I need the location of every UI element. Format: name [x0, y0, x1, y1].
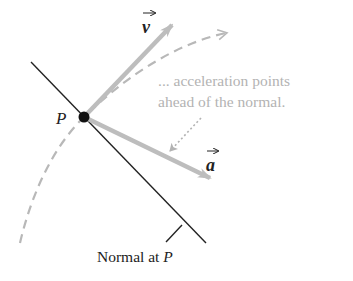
- velocity-label: v: [142, 13, 155, 37]
- acceleration-vector: [84, 117, 210, 178]
- annotation-pointer-arrow: [170, 118, 201, 151]
- point-p-label: P: [55, 109, 66, 128]
- normal-caption-point: P: [162, 248, 173, 265]
- normal-caption: Normal at P: [97, 248, 173, 265]
- normal-caption-prefix: Normal at: [97, 248, 163, 265]
- acceleration-label: a: [206, 151, 218, 175]
- velocity-label-text: v: [142, 17, 151, 37]
- acceleration-label-text: a: [206, 155, 215, 175]
- annotation-line-2: ahead of the normal.: [158, 93, 285, 110]
- normal-caption-leader: [166, 225, 182, 242]
- motion-diagram: P v a ... acceleration points ahead of t…: [0, 0, 353, 281]
- point-p-marker: [79, 112, 90, 123]
- normal-line: [31, 62, 206, 243]
- annotation-line-1: ... acceleration points: [158, 72, 290, 89]
